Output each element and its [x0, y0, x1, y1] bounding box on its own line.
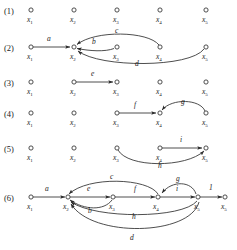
edge-label-f-row4: f — [134, 100, 137, 109]
edge-label-i-row5: i — [180, 135, 182, 144]
node-x3-row6 — [111, 195, 115, 199]
edge-label-a-row2: a — [47, 34, 51, 43]
node-x5-row1 — [204, 8, 208, 12]
edge-label-d-row6: d — [130, 233, 134, 242]
row-label-6: (6) — [4, 193, 14, 203]
edge-g-row6 — [162, 184, 196, 194]
node-x1-row5 — [29, 146, 33, 150]
edge-c-row6 — [69, 181, 158, 194]
node-label-x3-row1: x3 — [112, 15, 119, 25]
node-label-x2-row1: x2 — [69, 15, 76, 25]
node-x1-row3 — [29, 80, 33, 84]
graph-row-3: (3) e x1 x2 x3 x4 x5 — [4, 69, 208, 97]
node-label-x2-row2: x2 — [69, 52, 76, 62]
node-x3-row1 — [115, 8, 119, 12]
node-x1-row1 — [29, 8, 33, 12]
node-label-x4-row1: x4 — [155, 15, 162, 25]
node-x3-row4 — [115, 111, 119, 115]
node-x2-row1 — [72, 8, 76, 12]
graph-row-1: (1) x1 x2 x3 x4 x5 — [4, 6, 208, 25]
edge-label-b-row2: b — [92, 37, 96, 46]
node-x3-row5 — [115, 146, 119, 150]
node-label-x2-row6: x2 — [62, 202, 69, 212]
node-x1-row6 — [29, 195, 33, 199]
node-x3-row2 — [115, 45, 119, 49]
node-x5-row2 — [204, 45, 208, 49]
node-label-x1-row4: x1 — [26, 118, 33, 128]
node-x2-row6 — [66, 195, 70, 199]
edge-label-e-row3: e — [91, 69, 95, 78]
edge-label-d-row2: d — [135, 59, 139, 68]
node-label-x4-row2: x4 — [155, 52, 162, 62]
edge-label-h-row6: h — [132, 212, 136, 221]
edge-label-g-row6: g — [176, 174, 180, 183]
node-label-x5-row2: x5 — [201, 52, 208, 62]
node-x4-row5 — [158, 146, 162, 150]
node-label-x3-row2: x3 — [112, 52, 119, 62]
node-label-x1-row3: x1 — [26, 87, 33, 97]
node-x2-row3 — [72, 80, 76, 84]
node-label-x3-row3: x3 — [112, 87, 119, 97]
node-label-x4-row3: x4 — [155, 87, 162, 97]
row-label-2: (2) — [4, 43, 14, 53]
node-label-x1-row6: x1 — [26, 202, 33, 212]
edge-b-row2 — [77, 49, 114, 51]
node-label-x4-row4: x4 — [155, 118, 162, 128]
node-x1-row2 — [29, 45, 33, 49]
edge-label-g-row4: g — [181, 97, 185, 106]
node-label-x5-row3: x5 — [201, 87, 208, 97]
node-x1-row4 — [29, 111, 33, 115]
node-label-x2-row5: x2 — [69, 153, 76, 163]
node-label-x3-row6: x3 — [108, 202, 115, 212]
edge-label-a-row6: a — [45, 184, 49, 193]
edge-label-one-row6: 1 — [209, 183, 213, 192]
edge-label-f-row6: f — [134, 184, 137, 193]
node-label-x3-row4: x3 — [112, 118, 119, 128]
graph-row-6: (6) a e f i 1 c g b h d x1 x2 x3 — [4, 172, 227, 242]
node-x5-row3 — [204, 80, 208, 84]
graph-row-4: (4) f g x1 x2 x3 x4 x5 — [4, 97, 208, 128]
node-label-x5-terminal-row6: x5 — [220, 202, 227, 212]
node-label-x2-row3: x2 — [69, 87, 76, 97]
node-label-x5-row4: x5 — [201, 118, 208, 128]
row-label-5: (5) — [4, 144, 14, 154]
node-label-x5-row5: x5 — [201, 153, 208, 163]
row-label-3: (3) — [4, 78, 14, 88]
graph-row-2: (2) a b c d x1 x2 x3 x4 x5 — [4, 26, 208, 68]
graph-figure: (1) x1 x2 x3 x4 x5 (2) a b c d x1 x2 x3 — [0, 0, 237, 250]
node-label-x3-row5: x3 — [112, 153, 119, 163]
edge-label-b-row6: b — [88, 206, 92, 215]
node-label-x1-row5: x1 — [26, 153, 33, 163]
edge-c-row2 — [77, 34, 159, 45]
node-x2-row2 — [72, 45, 76, 49]
node-label-x1-row1: x1 — [26, 15, 33, 25]
node-x2-row5 — [72, 146, 76, 150]
node-x4-row2 — [158, 45, 162, 49]
row-label-4: (4) — [4, 109, 14, 119]
row-label-1: (1) — [4, 6, 14, 16]
node-x4-row1 — [158, 8, 162, 12]
graph-row-5: (5) i h x1 x2 x3 x4 x5 — [4, 135, 208, 170]
node-x4-row6 — [156, 195, 160, 199]
node-x5-terminal-row6 — [223, 195, 227, 199]
node-x5-row4 — [204, 111, 208, 115]
node-label-x5-row6: x5 — [193, 202, 200, 212]
node-label-x2-row4: x2 — [69, 118, 76, 128]
node-label-x1-row2: x1 — [26, 52, 33, 62]
node-x3-row3 — [115, 80, 119, 84]
node-label-x4-row6: x4 — [152, 202, 159, 212]
edge-label-c-row6: c — [110, 172, 114, 181]
edge-label-e-row6: e — [87, 184, 91, 193]
edge-label-i-row6: i — [176, 184, 178, 193]
node-label-x5-row1: x5 — [201, 15, 208, 25]
node-x5-row6 — [196, 195, 200, 199]
node-x4-row3 — [158, 80, 162, 84]
node-x2-row4 — [72, 111, 76, 115]
node-x4-row4 — [158, 111, 162, 115]
node-label-x4-row5: x4 — [155, 153, 162, 163]
node-x5-row5 — [204, 146, 208, 150]
